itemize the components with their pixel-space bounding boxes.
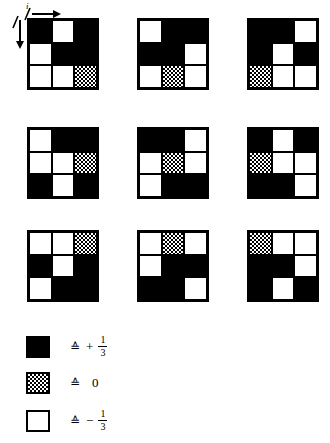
spin-cell xyxy=(294,43,317,66)
spin-cell xyxy=(139,65,162,88)
spin-cell xyxy=(249,43,272,66)
legend-swatch-black xyxy=(26,336,50,358)
spin-cell xyxy=(162,232,185,255)
spin-cell xyxy=(249,174,272,197)
spin-cell xyxy=(184,255,207,278)
spin-cell xyxy=(272,255,295,278)
spin-cell xyxy=(74,129,97,152)
spin-cell xyxy=(74,65,97,88)
legend-denominator-black: 3 xyxy=(98,347,107,358)
spin-cell xyxy=(52,174,75,197)
spin-cell xyxy=(52,20,75,43)
spin-cell xyxy=(294,232,317,255)
legend-sign-white: − xyxy=(86,413,93,429)
spin-cell xyxy=(29,152,52,175)
spin-cell xyxy=(249,152,272,175)
spin-cell xyxy=(139,255,162,278)
spin-cell xyxy=(184,20,207,43)
spin-cell xyxy=(184,152,207,175)
legend-label-gray: ≙ 0 xyxy=(70,375,99,391)
spin-cell xyxy=(162,20,185,43)
spin-cell xyxy=(249,255,272,278)
legend-fraction-white: 1 3 xyxy=(98,409,107,432)
spin-cell xyxy=(184,232,207,255)
spin-cell xyxy=(272,277,295,300)
spin-cell xyxy=(184,129,207,152)
spin-cell xyxy=(139,129,162,152)
spin-cell xyxy=(74,20,97,43)
corresponds-to-icon: ≙ xyxy=(70,414,80,428)
spin-cell xyxy=(139,232,162,255)
spin-cell xyxy=(294,129,317,152)
spin-cell xyxy=(139,20,162,43)
spin-cell xyxy=(272,65,295,88)
spin-cell xyxy=(29,43,52,66)
spin-grid-9 xyxy=(247,230,319,302)
spin-cell xyxy=(52,129,75,152)
spin-cell xyxy=(162,65,185,88)
spin-cell xyxy=(249,129,272,152)
spin-cell xyxy=(294,152,317,175)
spin-cell xyxy=(74,277,97,300)
spin-cell xyxy=(139,277,162,300)
spin-cell xyxy=(139,43,162,66)
spin-cell xyxy=(184,174,207,197)
spin-cell xyxy=(294,20,317,43)
spin-cell xyxy=(29,174,52,197)
legend-label-white: ≙ − 1 3 xyxy=(70,409,107,432)
spin-cell xyxy=(162,129,185,152)
spin-cell xyxy=(52,65,75,88)
spin-grid-4 xyxy=(27,127,99,199)
spin-cell xyxy=(184,43,207,66)
spin-cell xyxy=(29,20,52,43)
corresponds-to-icon: ≙ xyxy=(70,340,80,354)
spin-cell xyxy=(294,65,317,88)
spin-cell xyxy=(162,277,185,300)
legend-swatch-white xyxy=(26,410,50,432)
spin-cell xyxy=(184,65,207,88)
spin-cell xyxy=(294,174,317,197)
spin-grid-5 xyxy=(137,127,209,199)
legend-item-zero: ≙ 0 xyxy=(26,372,99,394)
spin-grid-3 xyxy=(247,18,319,90)
legend-numerator-white: 1 xyxy=(98,409,107,420)
spin-cell xyxy=(29,65,52,88)
spin-cell xyxy=(294,255,317,278)
spin-cell xyxy=(184,277,207,300)
spin-cell xyxy=(29,277,52,300)
spin-cell xyxy=(52,277,75,300)
spin-cell xyxy=(74,255,97,278)
legend-item-minus-third: ≙ − 1 3 xyxy=(26,409,107,432)
spin-cell xyxy=(162,255,185,278)
corresponds-to-icon: ≙ xyxy=(70,376,80,390)
spin-cell xyxy=(249,277,272,300)
grid-panel: i xyxy=(0,0,330,330)
spin-cell xyxy=(272,174,295,197)
spin-cell xyxy=(272,20,295,43)
spin-cell xyxy=(74,43,97,66)
legend-numerator-black: 1 xyxy=(98,335,107,346)
spin-cell xyxy=(29,255,52,278)
spin-cell xyxy=(272,129,295,152)
spin-cell xyxy=(29,129,52,152)
spin-grid-1 xyxy=(27,18,99,90)
spin-cell xyxy=(52,255,75,278)
legend-label-black: ≙ + 1 3 xyxy=(70,335,107,358)
legend-denominator-white: 3 xyxy=(98,421,107,432)
spin-cell xyxy=(162,43,185,66)
spin-cell xyxy=(249,65,272,88)
spin-cell xyxy=(162,174,185,197)
spin-grid-2 xyxy=(137,18,209,90)
spin-cell xyxy=(272,152,295,175)
spin-grid-7 xyxy=(27,230,99,302)
spin-cell xyxy=(294,277,317,300)
legend-sign-black: + xyxy=(86,339,93,355)
spin-grid-6 xyxy=(247,127,319,199)
legend-item-plus-third: ≙ + 1 3 xyxy=(26,335,107,358)
legend: ≙ + 1 3 ≙ 0 ≙ − 1 3 xyxy=(0,330,330,443)
spin-cell xyxy=(139,174,162,197)
spin-cell xyxy=(52,152,75,175)
spin-cell xyxy=(29,232,52,255)
spin-cell xyxy=(162,152,185,175)
spin-cell xyxy=(272,232,295,255)
